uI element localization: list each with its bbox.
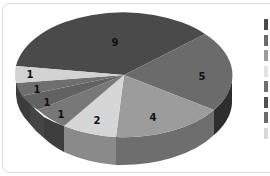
- legend-swatch: [264, 35, 268, 46]
- data-label-4: 4: [150, 112, 157, 123]
- data-label-9: 9: [112, 37, 119, 48]
- legend-swatch: [264, 50, 268, 61]
- legend-swatch: [264, 66, 268, 77]
- legend-swatch: [264, 112, 268, 123]
- legend-swatch: [264, 19, 268, 30]
- data-label-2: 2: [94, 115, 101, 126]
- pie-chart: 9 5 4 2 1 1 1 1: [0, 0, 270, 176]
- data-label-1a: 1: [27, 69, 34, 80]
- data-label-1d: 1: [58, 109, 65, 120]
- legend-swatch: [264, 128, 268, 139]
- data-label-5: 5: [199, 71, 206, 82]
- data-label-1b: 1: [34, 84, 41, 95]
- legend: [264, 19, 268, 143]
- data-label-1c: 1: [44, 97, 51, 108]
- legend-swatch: [264, 81, 268, 92]
- legend-swatch: [264, 97, 268, 108]
